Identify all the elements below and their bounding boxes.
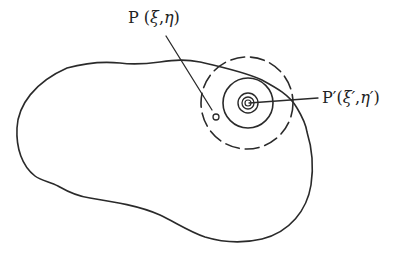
point-p-marker — [213, 114, 219, 120]
label-p-xi: ξ — [150, 8, 159, 27]
label-pprime-xi: ξ′ — [343, 88, 355, 107]
leader-line-p-prime — [249, 98, 318, 103]
label-pprime-close: ) — [373, 88, 379, 107]
diagram-svg — [0, 0, 401, 253]
solid-circle-large — [223, 78, 273, 128]
label-point-p-prime: P′(ξ′,η′) — [322, 90, 380, 106]
label-p-close: ) — [174, 8, 180, 27]
dashed-circle — [201, 57, 293, 149]
label-pprime-name: P′ — [322, 88, 336, 107]
label-p-open: ( — [139, 8, 150, 27]
label-p-eta: η — [164, 8, 174, 27]
label-pprime-eta: η′ — [360, 88, 373, 107]
diagram-canvas: P (ξ,η) P′(ξ′,η′) — [0, 0, 401, 253]
label-p-name: P — [128, 8, 139, 27]
label-point-p: P (ξ,η) — [128, 10, 180, 26]
leader-line-p — [166, 36, 212, 110]
